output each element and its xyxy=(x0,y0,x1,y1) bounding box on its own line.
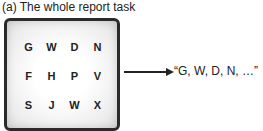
report-text: “G, W, D, N, …” xyxy=(174,64,258,78)
letter-cell: F xyxy=(17,62,40,91)
letter-display-box: G W D N F H P V S J W X xyxy=(4,18,120,131)
letter-cell: H xyxy=(40,62,63,91)
letter-cell: P xyxy=(63,62,86,91)
letter-grid: G W D N F H P V S J W X xyxy=(17,33,107,120)
letter-cell: W xyxy=(63,91,86,120)
letter-cell: D xyxy=(63,33,86,62)
letter-cell: V xyxy=(86,62,109,91)
letter-cell: W xyxy=(40,33,63,62)
figure-caption: (a) The whole report task xyxy=(2,0,135,14)
letter-cell: J xyxy=(40,91,63,120)
letter-cell: X xyxy=(86,91,109,120)
letter-cell: G xyxy=(17,33,40,62)
letter-cell: S xyxy=(17,91,40,120)
letter-cell: N xyxy=(86,33,109,62)
arrow-right-icon xyxy=(124,71,168,73)
